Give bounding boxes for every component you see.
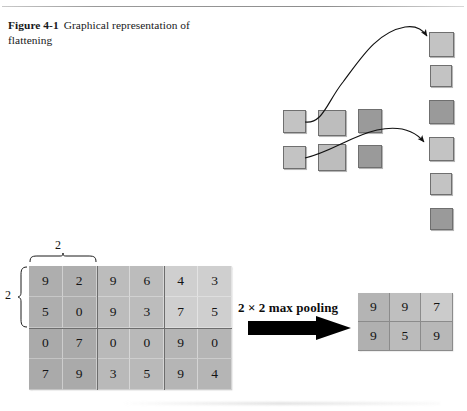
input-cell: 9 — [164, 328, 198, 359]
header-rule — [2, 6, 464, 7]
flattening-diagram — [265, 10, 467, 242]
flatten-arrow-2 — [305, 128, 424, 158]
figure-caption: Figure 4-1Graphical representation of fl… — [8, 18, 223, 48]
input-cell: 9 — [63, 359, 97, 390]
pooling-window-height-label: 2 — [5, 288, 11, 303]
output-cell: 9 — [390, 293, 422, 322]
pooling-window-width-label: 2 — [55, 238, 61, 253]
input-matrix: 9 2 9 6 4 3 5 0 9 3 7 5 0 7 0 0 9 0 7 9 … — [29, 266, 232, 390]
input-cell: 7 — [29, 359, 63, 390]
page-bottom-artifact — [120, 402, 440, 405]
input-cell: 9 — [164, 359, 198, 390]
flatten-arrows — [265, 10, 467, 242]
output-cell: 9 — [358, 322, 390, 351]
input-cell: 5 — [198, 297, 232, 328]
input-cell: 6 — [130, 266, 164, 297]
output-cell: 7 — [421, 293, 453, 322]
input-cell: 0 — [29, 328, 63, 359]
flatten-arrow-1 — [305, 27, 427, 123]
input-cell: 4 — [164, 266, 198, 297]
input-cell: 3 — [198, 266, 232, 297]
input-cell: 7 — [63, 328, 97, 359]
max-pooling-diagram: 2 2 9 2 9 6 4 3 5 0 9 3 7 5 0 7 0 0 9 0 … — [0, 240, 467, 411]
input-cell: 0 — [198, 328, 232, 359]
input-cell: 9 — [29, 266, 63, 297]
input-cell: 3 — [97, 359, 131, 390]
input-cell: 0 — [130, 328, 164, 359]
output-cell: 9 — [421, 322, 453, 351]
input-cell: 0 — [63, 297, 97, 328]
input-cell: 9 — [97, 266, 131, 297]
input-cell: 2 — [63, 266, 97, 297]
input-cell: 7 — [164, 297, 198, 328]
figure-label: Figure 4-1 — [8, 19, 59, 31]
right-arrow-icon — [248, 316, 351, 340]
output-matrix: 9 9 7 9 5 9 — [358, 293, 453, 351]
output-cell: 9 — [358, 293, 390, 322]
input-cell: 3 — [130, 297, 164, 328]
input-cell: 4 — [198, 359, 232, 390]
max-pooling-label: 2 × 2 max pooling — [238, 300, 338, 316]
pooling-window-brace-left — [18, 266, 28, 328]
pooling-window-brace-top — [29, 253, 97, 263]
input-cell: 5 — [130, 359, 164, 390]
output-cell: 5 — [390, 322, 422, 351]
input-cell: 9 — [97, 297, 131, 328]
input-cell: 5 — [29, 297, 63, 328]
input-cell: 0 — [97, 328, 131, 359]
